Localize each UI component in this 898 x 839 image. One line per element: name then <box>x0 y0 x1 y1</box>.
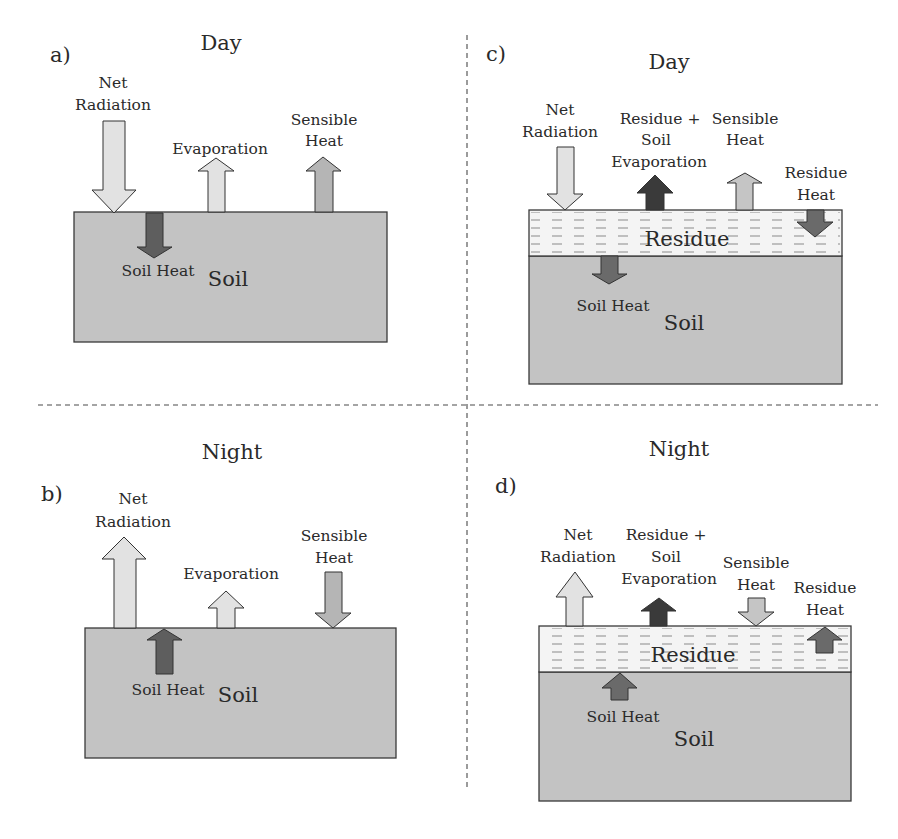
evaporation-label: Evaporation <box>621 570 717 588</box>
panel-d: d) Night Net Radiation Residue + Soil Ev… <box>495 437 856 801</box>
energy-balance-diagram: a) Day Net Radiation Soil Heat Evaporati… <box>0 0 898 839</box>
soil-heat-label: Soil Heat <box>587 708 661 726</box>
soil-heat-label: Soil Heat <box>577 297 651 315</box>
soil-label: Soil <box>208 267 249 291</box>
evaporation-label: Soil <box>641 131 671 149</box>
net-radiation-label: Radiation <box>540 548 616 566</box>
soil-label: Soil <box>674 727 715 751</box>
period-title: Day <box>648 50 689 74</box>
panel-letter: a) <box>50 43 71 67</box>
net-radiation-label: Radiation <box>75 96 151 114</box>
residue-heat-label: Residue <box>794 579 857 597</box>
soil-heat-label: Soil Heat <box>132 681 206 699</box>
soil-heat-label: Soil Heat <box>122 262 196 280</box>
panel-letter: d) <box>495 474 517 498</box>
evaporation-label: Residue + <box>626 526 707 544</box>
panel-c: c) Day Net Radiation Residue + Soil Evap… <box>486 42 847 384</box>
sensible-heat-label: Heat <box>726 131 765 149</box>
net-radiation-label: Net <box>564 526 594 544</box>
net-radiation-down-arrow-icon <box>547 147 583 210</box>
evaporation-up-arrow-icon <box>208 591 244 628</box>
residue-heat-label: Heat <box>806 601 845 619</box>
evaporation-label: Soil <box>651 548 681 566</box>
net-radiation-down-arrow-icon <box>92 121 136 213</box>
panel-b: b) Night Net Radiation Soil Heat Evapora… <box>41 440 396 758</box>
sensible-heat-down-arrow-icon <box>738 598 774 626</box>
sensible-heat-label: Heat <box>305 132 344 150</box>
sensible-heat-label: Sensible <box>301 527 368 545</box>
residue-label: Residue <box>644 227 729 251</box>
net-radiation-label: Net <box>119 490 149 508</box>
net-radiation-label: Radiation <box>95 513 171 531</box>
evaporation-up-arrow-icon <box>641 598 676 626</box>
residue-label: Residue <box>650 643 735 667</box>
net-radiation-label: Net <box>546 101 576 119</box>
sensible-heat-down-arrow-icon <box>315 572 351 628</box>
panel-letter: b) <box>41 482 63 506</box>
evaporation-label: Evaporation <box>183 565 279 583</box>
sensible-heat-label: Sensible <box>291 111 358 129</box>
evaporation-up-arrow-icon <box>198 158 234 212</box>
panel-a: a) Day Net Radiation Soil Heat Evaporati… <box>50 31 387 342</box>
period-title: Night <box>649 437 710 461</box>
net-radiation-up-arrow-icon <box>556 572 593 626</box>
sensible-heat-label: Sensible <box>723 554 790 572</box>
evaporation-up-arrow-icon <box>637 175 673 210</box>
net-radiation-label: Net <box>99 74 129 92</box>
evaporation-label: Evaporation <box>172 140 268 158</box>
net-radiation-up-arrow-icon <box>102 537 146 628</box>
period-title: Day <box>200 31 241 55</box>
panel-letter: c) <box>486 42 506 66</box>
sensible-heat-label: Heat <box>315 549 354 567</box>
sensible-heat-up-arrow-icon <box>306 157 341 212</box>
sensible-heat-label: Heat <box>737 576 776 594</box>
soil-label: Soil <box>218 683 259 707</box>
sensible-heat-up-arrow-icon <box>727 173 762 210</box>
period-title: Night <box>202 440 263 464</box>
evaporation-label: Evaporation <box>611 153 707 171</box>
sensible-heat-label: Sensible <box>712 110 779 128</box>
residue-heat-label: Heat <box>797 186 836 204</box>
evaporation-label: Residue + <box>620 110 701 128</box>
net-radiation-label: Radiation <box>522 123 598 141</box>
soil-label: Soil <box>664 311 705 335</box>
residue-heat-label: Residue <box>785 164 848 182</box>
